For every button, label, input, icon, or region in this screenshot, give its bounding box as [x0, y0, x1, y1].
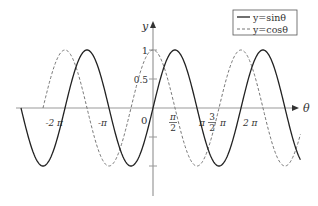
legend-sin-label: y=sinθ: [252, 12, 286, 23]
x-tick-label: -π: [98, 118, 108, 128]
x-axis-label: θ: [303, 102, 310, 115]
y-tick-label: 0.5: [134, 75, 149, 85]
x-ticks: -2 π-ππ2π32π2 π: [45, 112, 258, 133]
y-axis-label: y: [141, 20, 149, 33]
x-tick-label: 3: [209, 112, 215, 122]
x-axis-arrow-icon: [292, 105, 299, 111]
legend: y=sinθ y=cosθ: [233, 10, 297, 35]
y-axis-arrow-icon: [150, 21, 156, 28]
legend-cos-label: y=cosθ: [252, 24, 288, 35]
origin-label: 0: [141, 115, 147, 126]
y-tick-label: 1: [142, 45, 148, 56]
trig-chart: θ y 10.5 -2 π-ππ2π32π2 π 0 y=sinθ y=cosθ: [0, 0, 318, 206]
x-tick-label: π: [219, 118, 227, 128]
x-tick-label: 2 π: [242, 118, 259, 128]
x-tick-label: 2: [170, 123, 176, 133]
